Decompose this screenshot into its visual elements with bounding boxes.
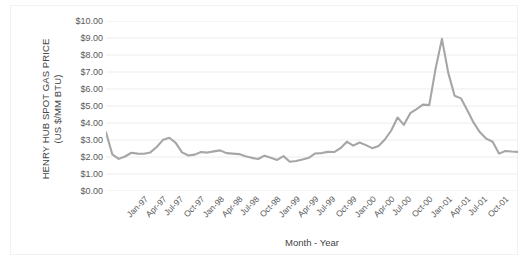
plot-area: [106, 21, 518, 191]
line-chart-svg: [106, 21, 518, 191]
y-axis-tick-labels: $0.00$1.00$2.00$3.00$4.00$5.00$6.00$7.00…: [59, 21, 103, 191]
y-axis-tick-label: $1.00: [59, 169, 103, 179]
y-axis-tick-label: $5.00: [59, 101, 103, 111]
y-axis-tick-label: $10.00: [59, 16, 103, 26]
y-axis-tick-label: $4.00: [59, 118, 103, 128]
y-axis-tick-label: $3.00: [59, 135, 103, 145]
y-axis-tick-label: $6.00: [59, 84, 103, 94]
x-axis-title: Month - Year: [106, 237, 518, 248]
chart-frame: HENRY HUB SPOT GAS PRICE (US $/MM BTU) $…: [10, 5, 518, 255]
y-axis-tick-label: $0.00: [59, 186, 103, 196]
y-axis-tick-label: $9.00: [59, 33, 103, 43]
price-series-line: [106, 39, 518, 162]
y-axis-tick-label: $8.00: [59, 50, 103, 60]
gridlines: [106, 21, 518, 191]
y-axis-title-line-1: HENRY HUB SPOT GAS PRICE: [40, 39, 52, 180]
x-axis-tick-label: Oct-01: [486, 194, 511, 219]
y-axis-tick-label: $2.00: [59, 152, 103, 162]
y-axis-tick-label: $7.00: [59, 67, 103, 77]
